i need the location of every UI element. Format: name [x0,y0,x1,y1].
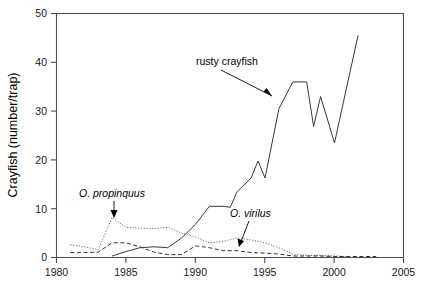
y-tick-label-10: 10 [35,203,47,215]
x-axis-ticks [57,258,404,264]
plot-frame [57,14,404,258]
arrowhead-rusty-crayfish [264,88,273,96]
y-tick-label-40: 40 [35,56,47,68]
y-tick-label-20: 20 [35,154,47,166]
x-tick-label-2000: 2000 [322,266,346,278]
x-tick-label-1990: 1990 [184,266,208,278]
annotation-label-rusty-crayfish: rusty crayfish [196,55,258,67]
arrowhead-o-propinquus [111,210,118,218]
annotation-rusty-crayfish: rusty crayfish [196,55,272,96]
x-tick-label-1985: 1985 [114,266,138,278]
annotation-o-virilus: O. virilus [230,207,272,247]
y-tick-label-30: 30 [35,105,47,117]
y-axis-ticks [51,14,57,258]
series-o-propinquus [70,218,348,257]
x-tick-label-1995: 1995 [253,266,277,278]
plot-border [57,14,404,258]
annotation-o-propinquus: O. propinquus [79,187,146,218]
x-tick-label-2005: 2005 [392,266,416,278]
y-tick-label-50: 50 [35,7,47,19]
chart-svg: 0 10 20 30 40 50 1980 1985 1990 1995 200… [0,0,434,287]
annotation-label-o-propinquus: O. propinquus [79,187,146,199]
annotation-label-o-virilus: O. virilus [230,207,272,219]
data-series-group [70,36,376,257]
y-tick-label-0: 0 [41,251,47,263]
y-axis-tick-labels: 0 10 20 30 40 50 [35,7,47,263]
arrowhead-o-virilus [238,239,245,248]
leader-line-rusty-crayfish [221,70,272,96]
x-axis-tick-labels: 1980 1985 1990 1995 2000 2005 [45,266,416,278]
x-tick-label-1980: 1980 [45,266,69,278]
series-rusty-crayfish [112,36,358,257]
y-axis-title: Crayfish (number/trap) [6,72,20,197]
crayfish-abundance-chart: 0 10 20 30 40 50 1980 1985 1990 1995 200… [0,0,434,287]
